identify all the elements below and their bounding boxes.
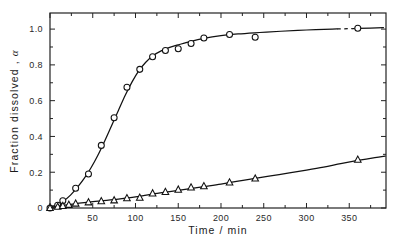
data-point-circle — [162, 48, 168, 54]
data-point-circle — [175, 46, 181, 52]
data-point-circle — [355, 25, 361, 31]
x-tick-label: 50 — [87, 213, 98, 223]
data-point-circle — [188, 40, 194, 46]
x-axis-title-text: Time / min — [188, 224, 248, 236]
x-tick-label: 300 — [298, 213, 314, 223]
y-tick-label: 0.2 — [29, 168, 43, 178]
x-tick-label: 150 — [170, 213, 186, 223]
x-tick-label: 200 — [213, 213, 229, 223]
data-point-circle — [85, 171, 91, 177]
data-point-circle — [252, 34, 258, 40]
data-point-circle — [111, 115, 117, 121]
data-point-circle — [98, 142, 104, 148]
data-point-circle — [201, 35, 207, 41]
y-axis-title: Fraction dissolved ,α — [8, 50, 20, 173]
data-point-circle — [137, 66, 143, 72]
y-tick-label: 1.0 — [29, 24, 43, 34]
y-tick-label: 0 — [38, 203, 43, 213]
fraction-dissolved-chart: 50100150200250300350 00.20.40.60.81.0 Ti… — [0, 0, 403, 243]
chart-figure: 50100150200250300350 00.20.40.60.81.0 Ti… — [0, 0, 403, 243]
data-point-circle — [227, 31, 233, 37]
y-axis-title-text: Fraction dissolved , — [8, 60, 20, 172]
y-tick-label: 0.6 — [29, 96, 43, 106]
data-point-circle — [73, 185, 79, 191]
data-point-circle — [150, 54, 156, 60]
x-axis-title: Time / min — [188, 224, 248, 236]
y-axis-title-alpha-symbol: α — [8, 50, 20, 56]
x-tick-label: 100 — [127, 213, 143, 223]
x-tick-label: 350 — [341, 213, 357, 223]
data-point-circle — [124, 84, 130, 90]
x-tick-label: 250 — [256, 213, 272, 223]
y-tick-label: 0.4 — [29, 132, 43, 142]
y-tick-label: 0.8 — [29, 60, 43, 70]
